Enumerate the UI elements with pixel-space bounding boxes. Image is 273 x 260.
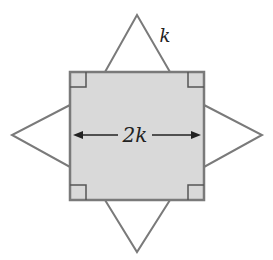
right-triangle	[204, 105, 262, 167]
square-side-label: 2k	[122, 123, 148, 147]
diagram-canvas: 2k k	[0, 0, 273, 260]
triangle-side-label: k	[160, 25, 171, 46]
bottom-triangle	[105, 200, 170, 252]
left-triangle	[12, 105, 70, 167]
